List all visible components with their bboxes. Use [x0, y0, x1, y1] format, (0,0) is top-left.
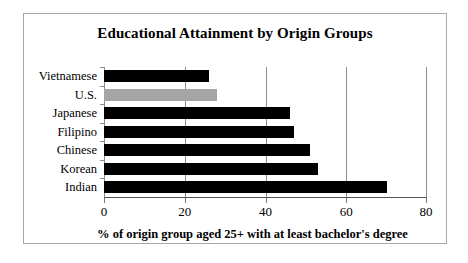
x-axis-label: % of origin group aged 25+ with at least…: [91, 227, 414, 242]
bar-row: Vietnamese: [104, 67, 427, 86]
bar-row: U.S.: [104, 86, 427, 105]
bar-us: [104, 89, 217, 101]
category-label-us: U.S.: [75, 87, 97, 103]
plot-area: Vietnamese U.S. Japanese Filipino Chines…: [104, 67, 427, 197]
x-tick-0: [104, 198, 105, 203]
bar-filipino: [104, 126, 294, 138]
category-label-chinese: Chinese: [57, 142, 97, 158]
x-tick-40: [266, 198, 267, 203]
y-tick-mark: [100, 141, 104, 142]
bar-japanese: [104, 107, 290, 119]
bar-row: Japanese: [104, 104, 427, 123]
bar-indian: [104, 181, 387, 193]
x-tick-label-40: 40: [259, 204, 272, 220]
chart-figure: Educational Attainment by Origin Groups …: [23, 13, 447, 244]
x-tick-label-80: 80: [420, 204, 433, 220]
y-tick-mark: [100, 86, 104, 87]
y-tick-mark: [100, 123, 104, 124]
x-tick-label-60: 60: [340, 204, 353, 220]
x-tick-80: [426, 198, 427, 203]
y-tick-mark: [100, 160, 104, 161]
chart-title: Educational Attainment by Origin Groups: [24, 25, 446, 42]
bar-row: Korean: [104, 160, 427, 179]
category-label-japanese: Japanese: [53, 105, 97, 121]
y-tick-mark: [100, 104, 104, 105]
bar-chinese: [104, 144, 310, 156]
bar-row: Indian: [104, 178, 427, 197]
category-label-korean: Korean: [60, 161, 97, 177]
bar-row: Chinese: [104, 141, 427, 160]
category-label-vietnamese: Vietnamese: [39, 68, 97, 84]
category-label-indian: Indian: [65, 179, 97, 195]
bar-vietnamese: [104, 70, 209, 82]
x-tick-label-20: 20: [178, 204, 191, 220]
x-tick-20: [185, 198, 186, 203]
y-tick-mark: [100, 178, 104, 179]
bar-korean: [104, 163, 318, 175]
y-tick-mark: [100, 67, 104, 68]
x-tick-label-0: 0: [101, 204, 108, 220]
category-label-filipino: Filipino: [57, 124, 97, 140]
x-tick-60: [346, 198, 347, 203]
bar-row: Filipino: [104, 123, 427, 142]
